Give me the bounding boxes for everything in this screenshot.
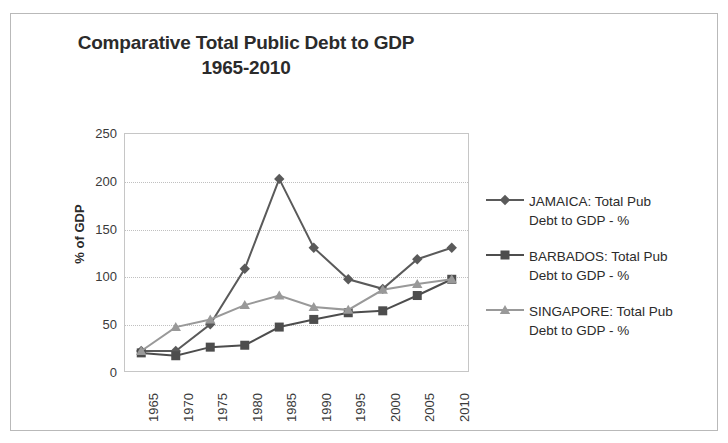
x-axis-tick-labels: 1965197019751980198519901995200020052010	[124, 376, 469, 436]
x-axis-tick-label: 2010	[457, 362, 472, 422]
series-layer	[124, 133, 469, 372]
x-axis-tick-label: 1980	[250, 362, 265, 422]
data-point-marker	[447, 243, 457, 253]
data-point-marker	[274, 174, 284, 184]
legend-diamond-icon	[485, 193, 525, 207]
legend-label-line-1: JAMAICA: Total Pub	[529, 194, 651, 209]
legend-label-line-1: BARBADOS: Total Pub	[529, 249, 668, 264]
series-3	[136, 274, 457, 355]
x-axis-tick-label: 1995	[353, 362, 368, 422]
figure-frame: Comparative Total Public Debt to GDP 196…	[10, 13, 718, 431]
data-point-marker	[309, 315, 318, 324]
plot-wrapper	[124, 133, 469, 372]
legend-triangle-icon	[485, 303, 525, 317]
y-axis-tick-label: 150	[71, 221, 117, 236]
legend-square-icon	[485, 248, 525, 262]
chart-title-line-1: Comparative Total Public Debt to GDP	[78, 32, 415, 53]
data-point-marker	[378, 306, 387, 315]
y-axis-tick-label: 100	[71, 269, 117, 284]
x-axis-tick-label: 1975	[215, 362, 230, 422]
data-point-marker	[171, 351, 180, 360]
legend-label: SINGAPORE: Total PubDebt to GDP - %	[529, 302, 705, 340]
series-1	[136, 174, 457, 356]
y-axis-tick-label: 50	[71, 317, 117, 332]
series-line	[141, 279, 452, 355]
legend-label-line-2: Debt to GDP - %	[529, 266, 705, 285]
data-point-marker	[500, 195, 510, 205]
x-axis-tick-label: 1985	[284, 362, 299, 422]
data-point-marker	[501, 251, 510, 260]
y-axis-tick-label: 200	[71, 173, 117, 188]
legend-entry-2[interactable]: BARBADOS: Total PubDebt to GDP - %	[485, 247, 705, 285]
data-point-marker	[240, 341, 249, 350]
x-axis-tick-label: 1970	[181, 362, 196, 422]
legend-label-line-2: Debt to GDP - %	[529, 321, 705, 340]
x-axis-tick-label: 1965	[146, 362, 161, 422]
data-point-marker	[275, 323, 284, 332]
data-point-marker	[413, 291, 422, 300]
data-point-marker	[274, 291, 284, 300]
legend-label-line-1: SINGAPORE: Total Pub	[529, 304, 673, 319]
x-axis-tick-label: 1990	[319, 362, 334, 422]
legend-label: BARBADOS: Total PubDebt to GDP - %	[529, 247, 705, 285]
legend-entry-1[interactable]: JAMAICA: Total PubDebt to GDP - %	[485, 192, 705, 230]
data-point-marker	[206, 343, 215, 352]
y-axis-tick-labels: 050100150200250	[69, 133, 117, 372]
chart-legend: JAMAICA: Total PubDebt to GDP - %BARBADO…	[485, 192, 705, 357]
chart-title: Comparative Total Public Debt to GDP 196…	[11, 30, 481, 80]
legend-label-line-2: Debt to GDP - %	[529, 211, 705, 230]
data-point-marker	[240, 264, 250, 274]
y-axis-tick-label: 250	[71, 126, 117, 141]
y-axis-tick-label: 0	[71, 365, 117, 380]
x-axis-tick-label: 2000	[388, 362, 403, 422]
legend-entry-3[interactable]: SINGAPORE: Total PubDebt to GDP - %	[485, 302, 705, 340]
x-axis-tick-label: 2005	[422, 362, 437, 422]
series-2	[137, 275, 457, 360]
series-line	[141, 279, 452, 351]
chart-title-line-2: 1965-2010	[11, 55, 481, 80]
legend-label: JAMAICA: Total PubDebt to GDP - %	[529, 192, 705, 230]
